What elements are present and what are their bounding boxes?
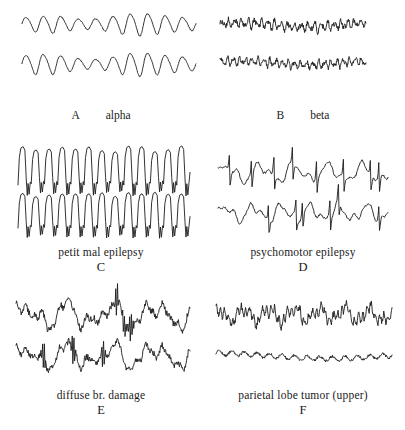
eeg-panel-b: Bbeta	[202, 0, 404, 143]
eeg-traces-f	[202, 288, 404, 388]
eeg-caption-b: Bbeta	[202, 108, 404, 122]
eeg-panel-c: petit mal epilepsy C	[0, 145, 202, 288]
eeg-traces-b	[202, 0, 404, 100]
eeg-panel-desc-b: beta	[310, 109, 329, 121]
eeg-figure: Aalpha Bbeta petit mal epilepsy C	[0, 0, 405, 430]
eeg-panel-desc-e: diffuse br. damage	[0, 388, 202, 402]
eeg-panel-letter-d: D	[202, 259, 404, 275]
eeg-trace-e-1	[16, 284, 190, 342]
eeg-caption-a: Aalpha	[0, 108, 202, 122]
eeg-trace-svg-d	[202, 145, 404, 245]
eeg-trace-a-1	[22, 14, 196, 36]
eeg-panel-letter-e: E	[0, 402, 202, 418]
eeg-trace-e-2	[16, 336, 190, 373]
eeg-trace-svg-e	[0, 288, 202, 388]
eeg-trace-svg-b	[202, 0, 404, 100]
eeg-panel-d: psychomotor epilepsy D	[202, 145, 404, 288]
eeg-panel-desc-c: petit mal epilepsy	[0, 245, 202, 259]
eeg-traces-d	[202, 145, 404, 245]
eeg-panel-letter-f: F	[202, 402, 404, 418]
eeg-caption-c: petit mal epilepsy C	[0, 245, 202, 275]
eeg-trace-c-1	[18, 146, 190, 196]
eeg-caption-inline-b: Bbeta	[202, 108, 404, 122]
eeg-panel-desc-f: parietal lobe tumor (upper)	[202, 388, 404, 402]
eeg-panel-a: Aalpha	[0, 0, 202, 143]
eeg-panel-desc-d: psychomotor epilepsy	[202, 245, 404, 259]
eeg-trace-a-2	[22, 53, 196, 76]
eeg-panel-letter-b: B	[277, 108, 285, 122]
eeg-trace-d-2	[218, 184, 388, 232]
eeg-trace-f-2	[216, 350, 392, 362]
eeg-traces-c	[0, 145, 202, 245]
eeg-trace-svg-c	[0, 145, 202, 245]
eeg-caption-d: psychomotor epilepsy D	[202, 245, 404, 275]
eeg-panel-desc-a: alpha	[106, 109, 131, 121]
eeg-caption-e: diffuse br. damage E	[0, 388, 202, 418]
eeg-traces-e	[0, 288, 202, 388]
eeg-trace-svg-f	[202, 288, 404, 388]
eeg-trace-b-1	[220, 17, 366, 35]
eeg-panel-e: diffuse br. damage E	[0, 288, 202, 430]
eeg-caption-f: parietal lobe tumor (upper) F	[202, 388, 404, 418]
eeg-panel-letter-a: A	[71, 108, 79, 122]
eeg-trace-svg-a	[0, 0, 202, 100]
eeg-trace-f-1	[216, 300, 392, 330]
eeg-trace-b-2	[220, 56, 366, 71]
eeg-trace-d-1	[218, 147, 388, 192]
eeg-caption-inline-a: Aalpha	[0, 108, 202, 122]
eeg-traces-a	[0, 0, 202, 100]
eeg-panel-letter-c: C	[0, 259, 202, 275]
eeg-trace-c-2	[18, 192, 190, 238]
eeg-panel-f: parietal lobe tumor (upper) F	[202, 288, 404, 430]
